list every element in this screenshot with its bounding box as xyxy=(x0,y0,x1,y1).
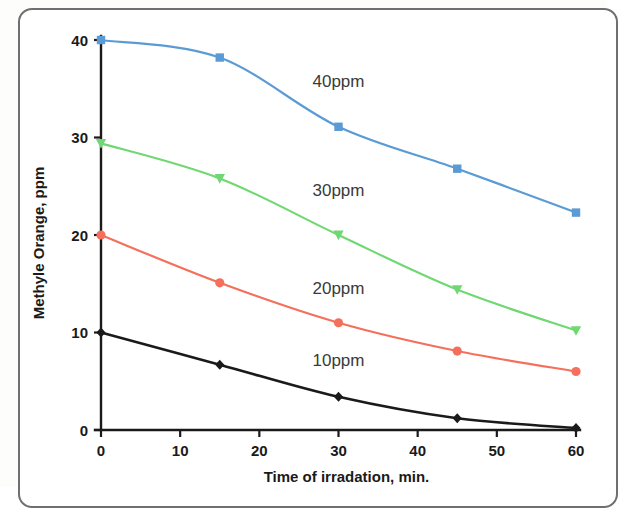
data-point-40ppm xyxy=(216,53,224,61)
series-label-40ppm: 40ppm xyxy=(313,72,365,91)
data-point-20ppm xyxy=(453,346,462,355)
series-line-10ppm xyxy=(101,333,576,429)
y-axis-tick-label: 20 xyxy=(71,227,88,244)
data-point-20ppm xyxy=(96,230,105,239)
y-axis-tick-label: 0 xyxy=(80,422,88,439)
y-axis-tick-label: 40 xyxy=(71,32,88,49)
data-point-40ppm xyxy=(97,36,105,44)
x-axis-tick-label: 40 xyxy=(409,442,426,459)
data-point-10ppm xyxy=(453,413,462,423)
x-axis-tick-label: 60 xyxy=(568,442,585,459)
y-axis-title: Methyle Orange, ppm xyxy=(30,167,47,320)
data-point-40ppm xyxy=(572,208,580,216)
x-axis-tick-label: 10 xyxy=(172,442,189,459)
x-axis-tick-label: 30 xyxy=(330,442,347,459)
data-point-10ppm xyxy=(571,423,580,433)
data-point-20ppm xyxy=(215,278,224,287)
x-axis-tick-label: 20 xyxy=(251,442,268,459)
data-point-30ppm xyxy=(333,231,343,241)
data-point-10ppm xyxy=(334,392,343,402)
x-axis-tick-label: 0 xyxy=(97,442,105,459)
y-axis-tick-label: 10 xyxy=(71,324,88,341)
data-point-20ppm xyxy=(571,367,580,376)
data-point-40ppm xyxy=(453,165,461,173)
series-label-30ppm: 30ppm xyxy=(313,181,365,200)
series-label-20ppm: 20ppm xyxy=(313,279,365,298)
data-point-10ppm xyxy=(96,328,105,338)
x-axis-title: Time of irradation, min. xyxy=(264,468,430,485)
data-point-30ppm xyxy=(571,326,581,336)
series-label-10ppm: 10ppm xyxy=(313,351,365,370)
data-point-20ppm xyxy=(334,318,343,327)
data-point-40ppm xyxy=(334,123,342,131)
x-axis-tick-label: 50 xyxy=(488,442,505,459)
y-axis-tick-label: 30 xyxy=(71,129,88,146)
data-point-10ppm xyxy=(215,360,224,370)
